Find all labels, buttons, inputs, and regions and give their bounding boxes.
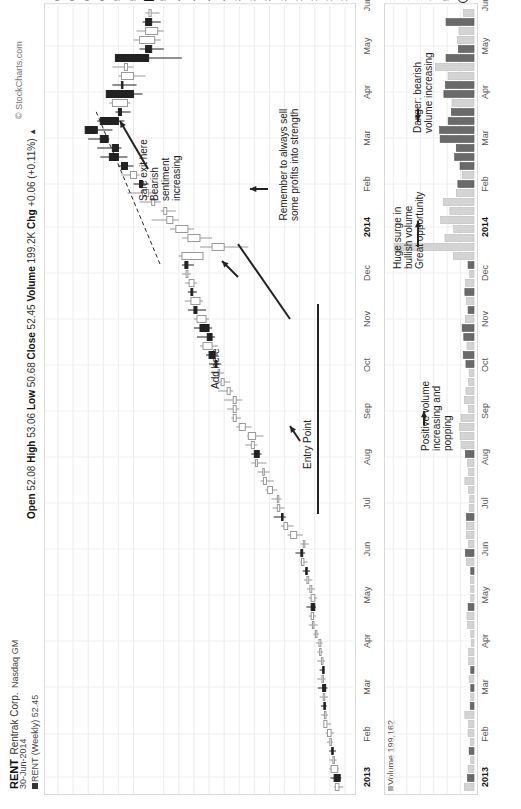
volume-bar	[468, 622, 474, 629]
price-tick-label: 60.0	[97, 0, 107, 1]
annotation-remember: Remember to always sell some profits int…	[278, 109, 300, 221]
candle	[307, 586, 315, 593]
candle	[295, 550, 305, 557]
time-tick-label: Jul	[362, 497, 372, 509]
price-tick-label: 25.0	[309, 0, 319, 1]
volume-bar	[466, 559, 474, 566]
volume-bar	[454, 226, 474, 233]
candle	[329, 766, 339, 773]
price-tick-label: 47.5	[173, 0, 183, 1]
volume-bar	[469, 505, 474, 512]
annotation-entry-point: Entry Point	[302, 420, 313, 469]
volume-bar	[462, 325, 474, 332]
candle	[260, 478, 273, 485]
volume-time-tick-label: Feb	[480, 176, 490, 192]
volume-bar	[461, 415, 474, 422]
volume-bar	[466, 388, 474, 395]
volume-bar	[471, 595, 474, 602]
volume-time-tick-label: Sep	[480, 403, 490, 419]
volume-bar	[440, 136, 474, 143]
volume-bar	[444, 91, 474, 98]
candle	[300, 541, 308, 548]
time-tick-label: Apr	[362, 85, 372, 99]
volume-time-tick-label: Jul	[480, 497, 490, 509]
volume-time-tick-label: Oct	[480, 358, 490, 372]
volume-bar	[466, 532, 474, 539]
volume-bar	[464, 334, 474, 341]
volume-tick-label: 1.25M	[401, 0, 411, 1]
volume-time-tick-label: Nov	[480, 311, 490, 327]
volume-bar	[467, 613, 474, 620]
price-tick-label: 67.5	[52, 0, 62, 1]
volume-bar	[468, 604, 474, 611]
volume-bar	[470, 496, 474, 503]
volume-bar	[460, 163, 474, 170]
chart-stage: RENT Rentrak Corp. Nasdaq GM 30-Jun-2014…	[0, 0, 521, 809]
candle	[330, 775, 341, 782]
price-tick-label: 30.0	[279, 0, 289, 1]
candle	[309, 622, 318, 629]
candle	[161, 208, 176, 215]
time-tick-label: Oct	[362, 358, 372, 372]
volume-bar	[462, 442, 474, 449]
candle	[304, 577, 312, 584]
candle	[100, 154, 127, 161]
volume-bar	[451, 109, 474, 116]
annotation-danger: Danger: bearish volume increasing	[412, 52, 434, 133]
volume-bar	[468, 460, 474, 467]
volume-bar	[466, 361, 474, 368]
volume-bar	[463, 10, 474, 17]
entry-arrow-icon	[290, 426, 300, 441]
price-tick-label: 57.5	[112, 0, 122, 1]
volume-bar	[448, 118, 474, 125]
candle	[306, 604, 316, 611]
volume-bar	[435, 64, 474, 71]
time-tick-label: Feb	[362, 726, 372, 742]
candle	[182, 262, 194, 269]
volume-bar	[445, 235, 474, 242]
candle	[152, 217, 179, 224]
volume-bar	[468, 775, 474, 782]
candle	[185, 280, 197, 287]
price-tick-label: 62.5	[82, 0, 92, 1]
volume-bar	[459, 424, 474, 431]
volume-time-tick-label: Apr	[480, 634, 490, 648]
volume-bar	[471, 568, 474, 575]
time-tick-label: Dec	[362, 265, 372, 281]
candle	[118, 163, 133, 170]
volume-bar	[471, 694, 474, 701]
price-tick-label: 27.5	[294, 0, 304, 1]
volume-bar	[469, 370, 474, 377]
volume-bar	[446, 55, 474, 62]
price-tick-label: 35.0	[248, 0, 258, 1]
volume-bar	[464, 397, 474, 404]
volume-time-tick-label: May	[480, 586, 490, 603]
candle	[272, 505, 284, 512]
time-tick-label: Apr	[362, 634, 372, 648]
volume-bar	[465, 451, 474, 458]
annotation-huge-surge: Huge surge in bullish volume Great oppor…	[392, 192, 425, 269]
volume-bar	[465, 289, 474, 296]
candle	[247, 433, 263, 440]
current-price-tag: 52.45	[143, 0, 155, 1]
volume-bar	[471, 667, 474, 674]
volume-bar	[469, 676, 474, 683]
candle	[334, 784, 343, 791]
volume-time-tick-label: May	[480, 37, 490, 54]
volume-bar	[467, 343, 474, 350]
volume-bar	[446, 82, 474, 89]
volume-bar	[468, 262, 474, 269]
volume-bar	[469, 487, 474, 494]
candle	[257, 469, 269, 476]
volume-bar	[465, 550, 474, 557]
volume-bar	[468, 307, 474, 314]
volume-bar	[468, 766, 474, 773]
candle	[134, 37, 161, 44]
price-tick-label: 20.0	[339, 0, 349, 1]
volume-bar	[469, 379, 474, 386]
candle	[97, 145, 121, 152]
volume-bar	[470, 577, 474, 584]
time-tick-label: 2014	[362, 217, 372, 237]
volume-tick-label: 750K	[428, 0, 438, 1]
volume-time-tick-label: Aug	[480, 449, 490, 465]
